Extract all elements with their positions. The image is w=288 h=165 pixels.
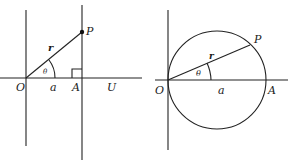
left-right-angle-marker xyxy=(72,69,82,78)
left-angle-arc xyxy=(49,60,55,78)
left-label-r: r xyxy=(48,42,54,53)
left-label-p: P xyxy=(85,25,94,38)
right-label-point-a: A xyxy=(267,84,276,97)
left-label-a: a xyxy=(50,81,57,94)
right-label-theta: θ xyxy=(196,69,201,78)
right-label-r: r xyxy=(209,51,215,61)
right-label-p: P xyxy=(253,33,262,46)
left-label-u: U xyxy=(107,81,117,94)
left-point-p-dot xyxy=(80,30,84,34)
right-angle-arc xyxy=(207,63,211,80)
left-label-o: O xyxy=(16,81,25,94)
diagram-canvas: P r θ O a A U P r θ O a A xyxy=(0,0,288,165)
right-label-a: a xyxy=(218,84,225,97)
left-label-theta: θ xyxy=(43,68,48,76)
right-figure: P r θ O a A xyxy=(155,10,288,150)
left-label-point-a: A xyxy=(71,81,80,94)
left-figure: P r θ O a A U xyxy=(0,5,142,160)
right-label-o: O xyxy=(155,84,164,97)
